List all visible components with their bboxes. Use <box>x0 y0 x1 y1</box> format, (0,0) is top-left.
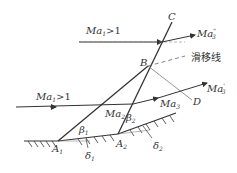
label-ma1-top: Ma1>1 <box>85 25 121 37</box>
label-delta1: δ1 <box>85 150 95 162</box>
label-ma3: Ma3 <box>159 98 180 110</box>
label-b: B <box>139 57 147 68</box>
label-a1: A1 <box>51 143 63 155</box>
label-beta1: β1 <box>78 124 89 136</box>
label-c: C <box>168 11 176 22</box>
label-ma2: Ma2 <box>104 108 125 120</box>
shock-diagram: C B D A1 A2 Ma1>1 Ma1>1 Ma2 Ma3 Ma'3 Ma"… <box>0 0 237 173</box>
label-delta2: δ2 <box>153 140 163 152</box>
label-a2: A2 <box>115 138 127 150</box>
label-d: D <box>192 96 201 107</box>
label-ma3-prime: Ma'3 <box>206 82 226 95</box>
line-b-d <box>148 66 192 100</box>
label-ma3-dprime: Ma"3 <box>196 27 216 40</box>
label-beta2: β2 <box>125 112 136 124</box>
flow-bottom <box>16 104 133 107</box>
label-slip-line: 滑移线 <box>191 51 221 63</box>
label-ma1-bottom: Ma1>1 <box>35 91 71 103</box>
